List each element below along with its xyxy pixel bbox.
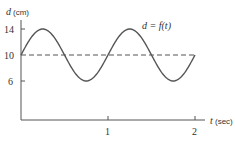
y-tick-label-14: 14	[4, 24, 14, 35]
x-tick-label-2: 2	[192, 126, 197, 137]
curve-label: d = f(t)	[142, 20, 172, 32]
x-axis-unit: (sec)	[215, 117, 233, 126]
y-tick-label-10: 10	[4, 50, 14, 61]
x-axis-label: t	[210, 115, 213, 126]
y-axis-label: d	[6, 6, 12, 17]
chart: d (cm) 14 10 6 1 2 t (sec) d = f(t)	[0, 0, 235, 147]
y-tick-label-6: 6	[8, 76, 13, 87]
y-axis-unit: (cm)	[13, 8, 29, 17]
x-tick-label-1: 1	[105, 126, 110, 137]
